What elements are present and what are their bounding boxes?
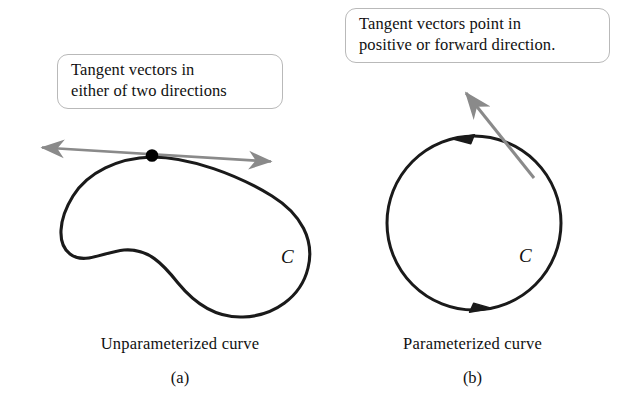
unparameterized-curve-path: [61, 157, 310, 317]
figure-root: Tangent vectors in either of two directi…: [0, 0, 620, 405]
caption-parameterized-curve: Parameterized curve: [330, 334, 615, 354]
callout-tangent-vectors-forward: Tangent vectors point in positive or for…: [345, 8, 610, 63]
panel-letter-a: (a): [30, 368, 330, 388]
panel-a-graphic: [42, 148, 310, 318]
bottom-orientation-arrowhead: [470, 303, 493, 312]
curve-label-a: C: [281, 246, 294, 268]
panel-letter-b: (b): [330, 368, 615, 388]
callout-tangent-vectors-two-directions: Tangent vectors in either of two directi…: [57, 54, 283, 109]
tangent-point-dot: [146, 149, 159, 162]
caption-unparameterized-curve: Unparameterized curve: [30, 334, 330, 354]
parameterized-curve-circle: [387, 136, 561, 310]
curve-label-b: C: [519, 245, 532, 267]
panel-b-graphic: [387, 93, 561, 312]
